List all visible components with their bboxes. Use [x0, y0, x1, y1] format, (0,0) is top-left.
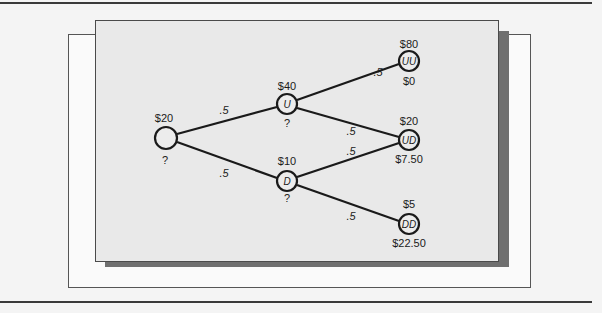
node-u-label: U	[283, 99, 291, 110]
dd-price: $5	[403, 198, 415, 210]
node-uu-label: UU	[402, 56, 417, 67]
uu-value: $0	[403, 75, 415, 87]
binomial-tree: U D UU UD DD $20 $40 $10 $80 $20 $5 ? ? …	[0, 0, 602, 313]
prob-root-u: .5	[219, 104, 229, 116]
root-value: ?	[162, 154, 168, 166]
prob-u-uu: .5	[373, 66, 383, 78]
uu-price: $80	[400, 38, 418, 50]
ud-price: $20	[400, 115, 418, 127]
u-price: $40	[278, 80, 296, 92]
node-dd-label: DD	[402, 219, 416, 230]
d-price: $10	[278, 155, 296, 167]
prob-d-ud: .5	[346, 145, 356, 157]
node-d-label: D	[283, 176, 290, 187]
dd-value: $22.50	[392, 237, 426, 249]
d-value: ?	[284, 192, 290, 204]
prob-root-d: .5	[219, 167, 229, 179]
u-value: ?	[284, 117, 290, 129]
node-ud-label: UD	[402, 135, 416, 146]
ud-value: $7.50	[395, 153, 423, 165]
prob-u-ud: .5	[346, 125, 356, 137]
prob-d-dd: .5	[346, 210, 356, 222]
node-root	[155, 127, 177, 149]
edge-u-uu	[297, 64, 399, 100]
root-price: $20	[155, 112, 173, 124]
